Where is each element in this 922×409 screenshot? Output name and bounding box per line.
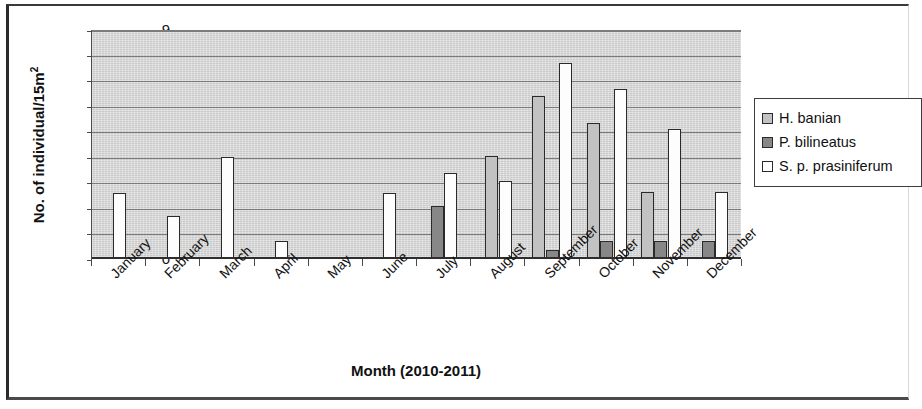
legend-swatch-icon — [762, 113, 773, 124]
gridline — [92, 107, 741, 108]
gridline — [92, 56, 741, 57]
y-axis-title-text: No. of individual/15m — [30, 72, 47, 223]
legend-item[interactable]: S. p. prasiniferum — [762, 154, 915, 178]
y-axis-tick-mark — [87, 209, 92, 210]
y-axis-tick-mark — [87, 132, 92, 133]
y-axis-tick-mark — [87, 31, 92, 32]
bar — [113, 193, 126, 259]
gridline — [92, 31, 741, 32]
y-axis-tick-mark — [87, 183, 92, 184]
y-axis-tick-mark — [87, 107, 92, 108]
bar — [485, 156, 498, 259]
y-axis-tick-mark — [87, 158, 92, 159]
gridline — [92, 183, 741, 184]
legend-label: S. p. prasiniferum — [779, 158, 893, 174]
bar — [221, 157, 234, 259]
bar — [641, 192, 654, 259]
y-axis-title-superscript: 2 — [29, 67, 40, 73]
legend-item[interactable]: P. bilineatus — [762, 130, 915, 154]
y-axis-tick-mark — [87, 56, 92, 57]
y-axis-tick-mark — [87, 234, 92, 235]
x-axis-title: Month (2010-2011) — [91, 362, 741, 379]
x-axis-tick-mark — [741, 259, 742, 266]
gridline — [92, 158, 741, 159]
legend-item[interactable]: H. banian — [762, 106, 915, 130]
figure-frame: No. of individual/15m2 0123456789 Januar… — [6, 4, 909, 400]
bar — [383, 193, 396, 259]
gridline — [92, 81, 741, 82]
y-axis-title: No. of individual/15m2 — [29, 30, 47, 260]
bar — [431, 206, 444, 259]
bar — [559, 63, 572, 259]
legend-label: P. bilineatus — [779, 134, 856, 150]
bar — [532, 96, 545, 259]
y-axis-tick-mark — [87, 81, 92, 82]
legend: H. banianP. bilineatusS. p. prasiniferum — [754, 98, 922, 187]
x-axis-tick-labels: JanuaryFebruaryMarchAprilMayJuneJulyAugu… — [91, 264, 741, 354]
legend-swatch-icon — [762, 161, 773, 172]
bar — [614, 89, 627, 259]
gridline — [92, 132, 741, 133]
legend-label: H. banian — [779, 110, 841, 126]
legend-swatch-icon — [762, 137, 773, 148]
plot-area — [91, 30, 741, 259]
bar — [444, 173, 457, 260]
